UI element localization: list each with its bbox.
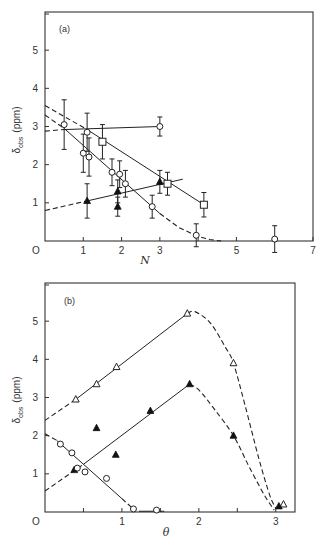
data-point-circle-open <box>74 465 80 471</box>
y-axis-label-sub-b: obs <box>17 406 24 418</box>
data-point-circle-open <box>109 159 115 186</box>
y-tick-label: 3 <box>32 121 38 132</box>
data-point-circle-open <box>57 441 63 447</box>
triangle-filled-marker <box>112 451 119 457</box>
data-point-square-open <box>99 125 106 159</box>
circle-open-marker <box>122 181 128 187</box>
circle-open-marker <box>272 236 278 242</box>
data-point-circle-open <box>193 224 199 247</box>
circle-open-marker <box>109 169 115 175</box>
circle-open-marker <box>57 441 63 447</box>
circle-open-marker <box>104 475 110 481</box>
data-point-circle-open <box>272 226 278 253</box>
circle-open-marker <box>154 507 160 513</box>
triangle-filled-marker <box>186 380 193 386</box>
circle-open-marker <box>130 506 136 512</box>
y-tick-label: 1 <box>32 197 38 208</box>
data-point-triangle-filled <box>84 184 91 218</box>
data-point-circle-open <box>80 134 86 172</box>
square-open-marker <box>99 138 106 145</box>
data-point-triangle-filled <box>93 424 100 430</box>
data-point-square-open <box>200 193 207 217</box>
circle-open-marker <box>86 154 92 160</box>
panel-label-b: (b) <box>64 296 75 306</box>
y-tick-label: 4 <box>32 354 38 365</box>
triangle-open-marker <box>184 310 191 316</box>
plot-frame-a <box>45 12 313 241</box>
data-point-circle-open <box>69 450 75 456</box>
square-open-marker <box>200 201 207 208</box>
y-tick-label: 4 <box>32 83 38 94</box>
data-points-a <box>61 100 278 253</box>
x-tick-label: O <box>32 245 40 256</box>
x-tick-label: 2 <box>196 516 202 527</box>
circle-open-marker <box>193 232 199 238</box>
x-tick-label: 5 <box>234 245 240 256</box>
x-tick-label: 3 <box>273 516 279 527</box>
upper-fit <box>76 314 188 400</box>
x-tick-label: 2 <box>119 245 125 256</box>
circle-open-marker <box>84 129 90 135</box>
y-axis-label-unit-b: (ppm) <box>11 377 22 403</box>
data-point-circle-open <box>130 506 136 512</box>
triangle-filled-marker <box>114 203 121 209</box>
upper-fit-dashed <box>45 399 76 420</box>
x-axis-label-b: θ <box>163 526 170 539</box>
data-point-circle-open <box>149 195 155 218</box>
circle-open-marker <box>69 450 75 456</box>
data-point-circle-open <box>154 507 160 513</box>
circle-fit <box>57 440 122 498</box>
data-point-triangle-filled <box>147 407 154 413</box>
circle-open-marker <box>82 469 88 475</box>
x-tick-label: 7 <box>310 245 316 256</box>
triangle-filled-marker <box>114 188 121 194</box>
panel-b: (b) O12312345 θ δobs(ppm) <box>11 283 295 539</box>
circle-open-marker <box>149 204 155 210</box>
y-tick-label: 2 <box>32 159 38 170</box>
ticks-a: O1235712345 <box>32 14 316 256</box>
square-open-marker <box>164 180 171 187</box>
flat-line <box>64 127 160 130</box>
panel-label-a: (a) <box>59 24 70 34</box>
y-tick-label: 5 <box>32 316 38 327</box>
triangle-filled-marker <box>156 178 163 184</box>
middle-fit <box>83 384 189 464</box>
data-point-circle-open <box>61 100 67 150</box>
y-tick-label: 2 <box>32 430 38 441</box>
y-axis-label-sub-a: obs <box>17 136 24 148</box>
triangle-open-marker <box>230 359 237 365</box>
x-tick-label: 1 <box>81 245 87 256</box>
y-tick-label: 1 <box>32 468 38 479</box>
data-point-circle-open <box>82 469 88 475</box>
y-axis-label-unit-a: (ppm) <box>11 107 22 133</box>
x-tick-label: 1 <box>119 516 125 527</box>
flat-line-dashed <box>45 130 64 132</box>
circle-fit-dashed-tail <box>160 214 221 241</box>
data-point-circle-open <box>157 117 163 136</box>
data-point-triangle-filled <box>186 380 193 386</box>
data-point-triangle-filled <box>156 170 163 193</box>
y-tick-label: 5 <box>32 45 38 56</box>
plot-frame-b <box>45 283 295 512</box>
middle-fit-decay <box>190 384 275 510</box>
ticks-b: O12312345 <box>32 285 279 527</box>
triangle-filled-marker <box>147 407 154 413</box>
y-axis-label-a: δobs(ppm) <box>11 107 24 154</box>
fit-lines-b <box>45 311 276 511</box>
x-tick-label: O <box>32 516 40 527</box>
circle-open-marker <box>61 122 67 128</box>
y-tick-label: 3 <box>32 392 38 403</box>
panel-a: (a) O1235712345 N δobs(ppm) <box>11 12 316 267</box>
triangle-open-marker <box>72 396 79 402</box>
circle-open-marker <box>157 124 163 130</box>
fit-lines-a <box>45 106 221 241</box>
data-point-square-open <box>164 172 171 195</box>
data-point-triangle-filled <box>112 451 119 457</box>
triangle-fit-dashed <box>45 201 87 211</box>
figure: (a) O1235712345 N δobs(ppm) (b) O1231234… <box>0 0 324 548</box>
data-point-triangle-open <box>184 310 191 316</box>
data-point-circle-open <box>104 475 110 481</box>
circle-open-marker <box>117 171 123 177</box>
upper-fit-decay <box>187 311 275 508</box>
data-point-triangle-open <box>72 396 79 402</box>
